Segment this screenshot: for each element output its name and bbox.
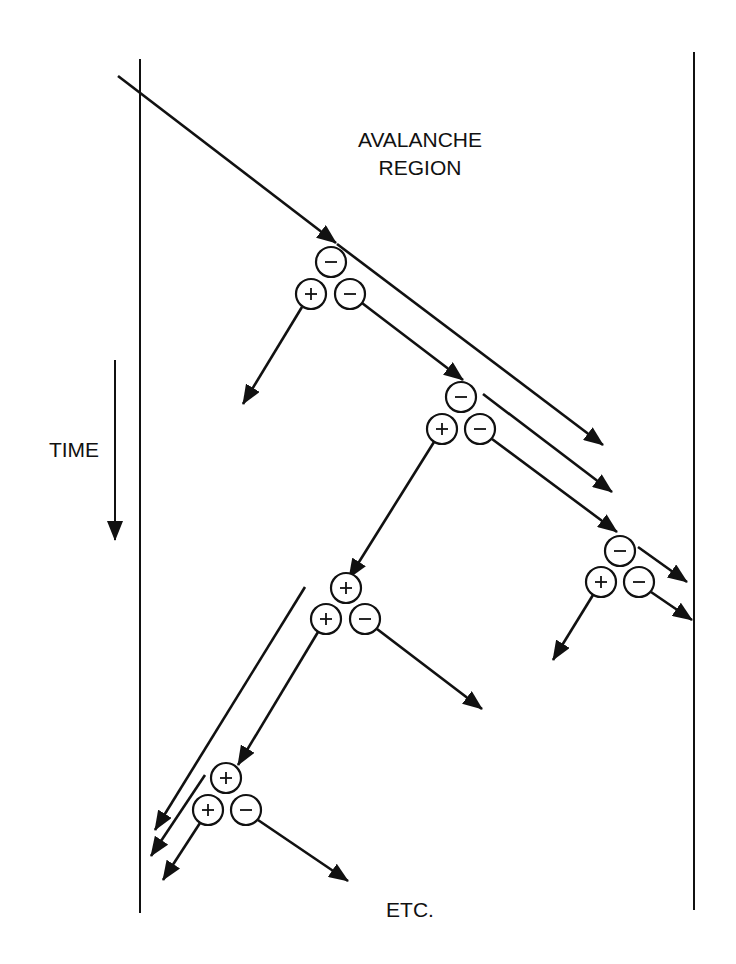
electron-1-new-arrow bbox=[362, 303, 463, 380]
electron-carrier-icon bbox=[231, 795, 261, 825]
hole-3-arrow bbox=[553, 595, 593, 660]
electron-4-new-arrow bbox=[377, 629, 482, 709]
electron-5-new-arrow bbox=[258, 820, 348, 881]
electron-carrier-icon bbox=[335, 279, 365, 309]
electron-3-new-arrow bbox=[651, 592, 692, 620]
hole-4-new-arrow bbox=[238, 632, 318, 765]
ionization-4 bbox=[311, 573, 380, 634]
electron-1-continue-arrow bbox=[337, 244, 603, 445]
hole-carrier-icon bbox=[331, 573, 361, 603]
ionization-events bbox=[193, 247, 654, 825]
ionization-3 bbox=[586, 536, 654, 597]
region-title-line1: AVALANCHE bbox=[330, 126, 510, 154]
hole-carrier-icon bbox=[586, 567, 616, 597]
incoming-electron-arrow bbox=[118, 76, 336, 243]
ionization-5 bbox=[193, 763, 261, 825]
time-label: TIME bbox=[44, 436, 104, 464]
electron-carrier-icon bbox=[605, 536, 635, 566]
hole-carrier-icon bbox=[427, 414, 457, 444]
hole-carrier-icon bbox=[311, 604, 341, 634]
hole-carrier-icon bbox=[211, 763, 241, 793]
electron-carrier-icon bbox=[446, 382, 476, 412]
electron-2-continue-arrow bbox=[483, 394, 612, 492]
hole-1-arrow bbox=[243, 307, 302, 404]
electron-carrier-icon bbox=[624, 567, 654, 597]
region-title-line2: REGION bbox=[330, 154, 510, 182]
ionization-2 bbox=[427, 382, 495, 444]
hole-carrier-icon bbox=[296, 279, 326, 309]
etc-label: ETC. bbox=[370, 896, 450, 924]
region-title: AVALANCHE REGION bbox=[330, 126, 510, 182]
electron-carrier-icon bbox=[350, 604, 380, 634]
electron-carrier-icon bbox=[465, 414, 495, 444]
hole-carrier-icon bbox=[193, 795, 223, 825]
electron-carrier-icon bbox=[316, 247, 346, 277]
hole-2-arrow bbox=[349, 442, 434, 578]
carrier-trajectories bbox=[118, 76, 692, 881]
electron-2-new-arrow bbox=[492, 439, 617, 532]
